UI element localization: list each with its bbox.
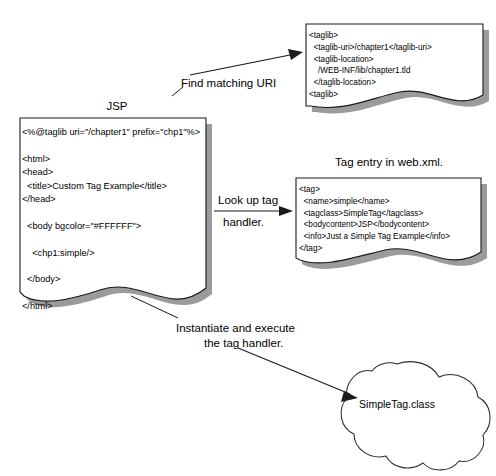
webxml-document-code: <tag> <name>simple</name> <tagclass>Simp…: [299, 184, 450, 255]
taglib-document-code: <taglib> <taglib-uri>/chapter1</taglib-u…: [309, 30, 432, 101]
jsp-document-title: JSP: [62, 100, 172, 112]
jsp-document-code: <%@taglib uri="/chapter1" prefix="chp1"%…: [22, 126, 200, 314]
arrow-label-look-up-tag-line1: Look up tag: [218, 194, 278, 206]
arrow-label-find-matching-uri: Find matching URI: [181, 77, 276, 89]
cloud-label: SimpleTag.class: [337, 398, 457, 410]
cloud-shape[interactable]: [341, 362, 490, 470]
diagram-canvas: JSP <%@taglib uri="/chapter1" prefix="ch…: [0, 0, 496, 476]
arrow-label-look-up-tag-line2: handler.: [223, 216, 264, 228]
arrow-label-instantiate-line1: Instantiate and execute: [176, 322, 295, 334]
arrow-label-instantiate-line2: the tag handler.: [204, 337, 283, 349]
webxml-document-title: Tag entry in web.xml.: [300, 156, 478, 168]
arrow-look-up-tag-handler: [214, 206, 293, 216]
